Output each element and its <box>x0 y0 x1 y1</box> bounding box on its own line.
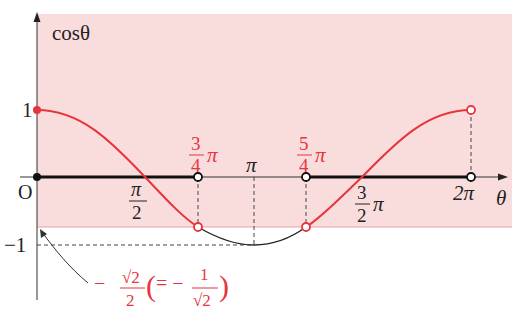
point-5-4-pi-curve-open <box>302 223 310 231</box>
tick-five-quarter-den: 4 <box>299 155 309 176</box>
tick-half-pi-den: 2 <box>132 202 142 223</box>
origin-point <box>33 173 41 181</box>
annotation-sqrt2b: √2 <box>193 291 211 310</box>
y-tick-minus-one: −1 <box>4 233 26 257</box>
highlight-region <box>37 14 512 227</box>
tick-three-quarter-num: 3 <box>191 133 201 154</box>
cosine-graph: cosθ θ 1 −1 O π 2 π 3 2 π 2π 3 4 π 5 4 π… <box>0 0 522 313</box>
annotation-minus: − <box>94 272 105 294</box>
tick-pi: π <box>246 153 257 177</box>
tick-three-half-num: 3 <box>357 182 367 203</box>
y-tick-one: 1 <box>22 98 33 122</box>
annotation-paren-close: ) <box>219 269 229 303</box>
annotation-sqrt2: √2 <box>122 268 140 287</box>
tick-three-quarter-den: 4 <box>191 155 201 176</box>
x-axis-label: θ <box>496 186 506 210</box>
tick-five-quarter-pi: π <box>315 143 326 167</box>
tick-three-half-den: 2 <box>357 205 367 226</box>
annotation-paren-open: ( <box>146 269 156 303</box>
cos-curve-black-middle <box>198 227 306 245</box>
point-2-pi-curve-open <box>467 106 475 114</box>
tick-three-half-pi: π <box>373 192 384 216</box>
tick-three-quarter-pi: π <box>207 143 218 167</box>
y-axis-label: cosθ <box>52 21 90 45</box>
annotation-den: 2 <box>126 291 135 310</box>
point-3-4-pi-curve-open <box>194 223 202 231</box>
point-2-pi-axis-open <box>467 173 475 181</box>
tick-half-pi-num: π <box>131 178 142 200</box>
annotation-arrow <box>42 232 88 283</box>
annotation-eq-minus: = − <box>156 272 184 294</box>
tick-five-quarter-num: 5 <box>299 133 309 154</box>
tick-two-pi: 2π <box>453 181 475 205</box>
annotation-one: 1 <box>200 265 209 284</box>
point-start-filled <box>33 106 41 114</box>
origin-label: O <box>18 181 32 203</box>
